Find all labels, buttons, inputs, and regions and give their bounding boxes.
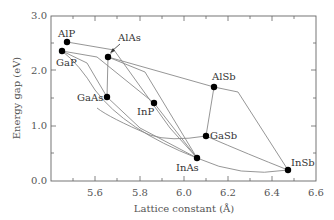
label-gaas: GaAs <box>77 92 103 103</box>
x-tick-label: 5.6 <box>87 187 103 198</box>
label-inp: InP <box>137 106 154 117</box>
y-axis-title: Energy gap (eV) <box>11 57 22 140</box>
label-gap: GaP <box>56 57 77 68</box>
x-axis-title: Lattice constant (Å) <box>134 203 234 214</box>
data-points <box>59 39 291 173</box>
point-alsb <box>211 84 217 90</box>
label-inas: InAs <box>176 162 199 173</box>
label-alp: AlP <box>57 28 75 39</box>
label-gasb: GaSb <box>210 130 237 141</box>
label-alsb: AlSb <box>211 71 236 82</box>
point-alas <box>105 54 111 60</box>
x-tick-label: 6.0 <box>176 187 192 198</box>
x-tick-label: 5.8 <box>132 187 148 198</box>
point-inas <box>194 155 200 161</box>
x-tick-label: 6.4 <box>264 187 280 198</box>
point-gaas <box>104 94 110 100</box>
y-tick-label: 3.0 <box>31 10 47 21</box>
label-alas: AlAs <box>117 32 141 43</box>
bandgap-chart: 5.6 5.8 6.0 6.2 6.4 6.6 0.0 1.0 2.0 3.0 … <box>0 0 334 220</box>
alloy-lines <box>62 42 288 172</box>
y-tick-label: 0.0 <box>31 175 47 186</box>
label-insb: InSb <box>291 157 315 168</box>
y-tick-label: 1.0 <box>31 120 47 131</box>
x-tick-label: 6.2 <box>220 187 236 198</box>
y-tick-label: 2.0 <box>31 65 47 76</box>
point-gap <box>59 48 65 54</box>
point-alp <box>64 39 70 45</box>
point-gasb <box>203 133 209 139</box>
x-tick-label: 6.6 <box>308 187 324 198</box>
